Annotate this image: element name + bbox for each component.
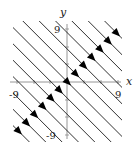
flow-line [20,0,134,129]
flow-line [0,27,123,143]
x-tick-label-neg9: -9 [9,89,19,100]
flow-line [12,0,134,137]
x-axis-label: x [126,75,133,88]
y-axis-label: y [59,6,67,19]
x-tick-label-9: 9 [115,89,121,100]
flow-line [28,0,134,121]
y-tick-label-9: 9 [54,24,60,35]
y-tick-label-neg9: -9 [46,130,56,141]
phase-portrait-figure: y x 9 -9 -9 9 [0,0,134,143]
